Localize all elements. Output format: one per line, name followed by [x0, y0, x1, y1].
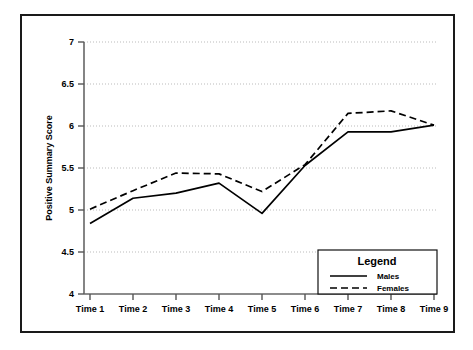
x-tick-label-4: Time 4: [205, 304, 233, 314]
y-tick-label-5.5: 5.5: [61, 163, 74, 173]
legend-label-females: Females: [377, 284, 410, 293]
y-tick-label-4.5: 4.5: [61, 247, 74, 257]
x-tick-label-6: Time 6: [291, 304, 319, 314]
legend: Legend Males Females: [318, 250, 437, 294]
x-tick-label-8: Time 8: [377, 304, 405, 314]
x-tick-labels: Time 1 Time 2 Time 3 Time 4 Time 5 Time …: [76, 304, 448, 314]
x-tick-label-1: Time 1: [76, 304, 104, 314]
y-tick-label-6: 6: [69, 121, 74, 131]
y-tick-label-4: 4: [69, 289, 74, 299]
x-tick-label-2: Time 2: [119, 304, 147, 314]
figure-frame: 7 6.5 6 5.5 5 4.5 4 Positive Summary Sco…: [20, 14, 455, 333]
legend-label-males: Males: [377, 272, 400, 281]
x-tick-label-7: Time 7: [334, 304, 362, 314]
y-tick-label-6.5: 6.5: [61, 79, 74, 89]
y-axis-title: Positive Summary Score: [44, 115, 54, 221]
y-tick-label-7: 7: [69, 37, 74, 47]
x-tick-label-5: Time 5: [248, 304, 276, 314]
line-chart: 7 6.5 6 5.5 5 4.5 4 Positive Summary Sco…: [22, 16, 453, 331]
legend-title: Legend: [357, 255, 396, 267]
y-tick-label-5: 5: [69, 205, 74, 215]
x-tick-label-3: Time 3: [162, 304, 190, 314]
x-tick-label-9: Time 9: [420, 304, 448, 314]
